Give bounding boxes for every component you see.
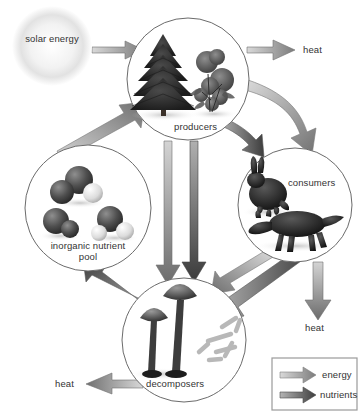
node-hit-consumers[interactable] <box>238 148 352 262</box>
arrow-producers-to-decomposers-energy <box>156 141 180 285</box>
arrow-producers-to-heat <box>247 40 295 60</box>
node-hit-producers[interactable] <box>127 18 249 140</box>
arrow-producers-to-decomposers-nutrients <box>182 141 206 282</box>
node-hit-decomposers[interactable] <box>122 278 246 402</box>
node-hit-inorganic-nutrient-pool[interactable] <box>25 145 151 271</box>
arrow-consumers-to-heat <box>305 262 331 320</box>
legend-hit[interactable] <box>272 358 357 410</box>
node-hit-solar-energy[interactable] <box>12 6 92 86</box>
